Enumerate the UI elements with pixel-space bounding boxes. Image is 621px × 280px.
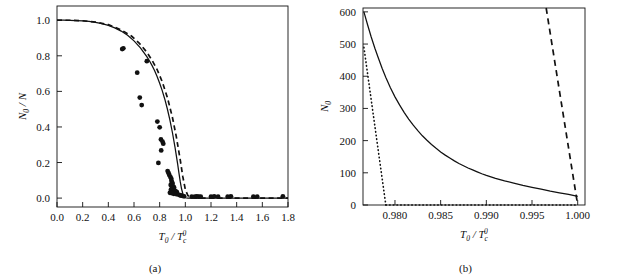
x-tick-label: 1.2	[204, 211, 218, 223]
series-finite-size-theory-dashed	[57, 20, 288, 198]
y-tick-label: 0.8	[36, 50, 50, 62]
x-axis-title: T0 / Tc0	[159, 229, 188, 245]
data-point	[144, 59, 149, 64]
x-tick-label: 1.000	[565, 209, 590, 221]
data-point	[159, 148, 164, 153]
panel-b-caption: (b)	[310, 262, 621, 274]
figure-root: 0.00.20.40.60.81.01.21.41.61.80.00.20.40…	[0, 0, 621, 280]
y-tick-label: 0.6	[36, 85, 50, 97]
y-axis-title: N0 / N	[16, 92, 31, 121]
y-tick-label: 0.0	[36, 192, 50, 204]
y-tick-label: 0.2	[36, 157, 50, 169]
data-point	[157, 125, 162, 130]
data-point	[161, 141, 166, 146]
x-tick-label: 1.6	[255, 211, 269, 223]
data-point	[155, 119, 160, 124]
panel-a-plot: 0.00.20.40.60.81.01.21.41.61.80.00.20.40…	[0, 0, 310, 248]
data-point-group	[120, 46, 285, 199]
y-tick-label: 400	[340, 70, 357, 82]
y-tick-label: 1.0	[36, 14, 50, 26]
y-tick-label: 500	[340, 38, 357, 50]
data-point	[139, 103, 144, 108]
x-tick-label: 0.980	[383, 209, 408, 221]
data-point	[198, 194, 203, 199]
data-point	[216, 194, 221, 199]
x-tick-label: 0.0	[50, 211, 64, 223]
panel-b-plot: 0.9800.9850.9900.9951.000010020030040050…	[310, 0, 621, 248]
data-point	[280, 194, 285, 199]
data-point	[228, 194, 233, 199]
data-point	[137, 95, 142, 100]
x-tick-label: 1.8	[281, 211, 295, 223]
x-axis-title: T0 / Tc0	[460, 227, 489, 243]
x-tick-label: 0.985	[428, 209, 453, 221]
plot-frame	[363, 8, 585, 205]
x-tick-label: 0.8	[153, 211, 167, 223]
y-tick-label: 0	[351, 199, 357, 211]
x-tick-label: 0.995	[520, 209, 545, 221]
y-tick-label: 0.4	[36, 121, 50, 133]
x-tick-label: 0.990	[474, 209, 499, 221]
x-tick-label: 0.4	[101, 211, 115, 223]
data-point	[121, 46, 126, 51]
y-axis-title: N0	[318, 101, 333, 113]
y-tick-label: 200	[340, 135, 357, 147]
data-point	[135, 70, 140, 75]
x-tick-label: 0.6	[127, 211, 141, 223]
panel-a-caption: (a)	[0, 262, 310, 274]
y-tick-label: 100	[340, 167, 357, 179]
data-point	[255, 194, 260, 199]
data-point	[182, 194, 187, 199]
series-exact-solid-curve	[364, 12, 578, 196]
x-tick-label: 0.2	[76, 211, 90, 223]
y-tick-label: 300	[340, 102, 357, 114]
x-tick-label: 1.4	[230, 211, 244, 223]
series-asymptotic-dashed-line	[546, 8, 578, 205]
data-point	[156, 160, 161, 165]
x-tick-label: 1.0	[178, 211, 192, 223]
series-ideal-gas-theory-solid	[57, 20, 288, 198]
y-tick-label: 600	[340, 6, 357, 18]
panel-b: 0.9800.9850.9900.9951.000010020030040050…	[310, 0, 621, 280]
panel-a: 0.00.20.40.60.81.01.21.41.61.80.00.20.40…	[0, 0, 310, 280]
